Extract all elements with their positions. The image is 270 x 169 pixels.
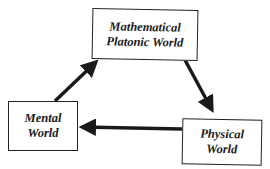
arrow-mathematical-to-physical [185, 60, 212, 110]
node-label-line: Platonic World [106, 34, 183, 50]
node-mathematical-platonic-world: Mathematical Platonic World [92, 8, 199, 61]
arrow-mental-to-mathematical [55, 62, 96, 101]
node-physical-world: Physical World [182, 118, 263, 165]
node-label-line: World [27, 126, 58, 141]
node-mental-world: Mental World [8, 101, 78, 151]
node-label-line: World [206, 142, 237, 158]
node-label-line: Physical [200, 127, 244, 143]
node-label-line: Mental [25, 111, 62, 126]
node-label-line: Mathematical [109, 19, 181, 35]
arrow-physical-to-mental [82, 127, 182, 129]
